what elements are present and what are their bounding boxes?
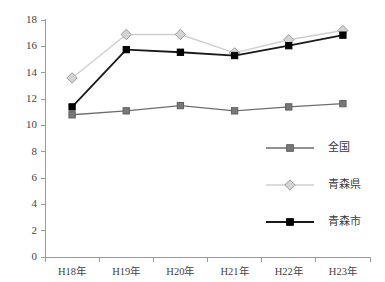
- chart-series-layer: [67, 25, 348, 118]
- data-point-marker: [231, 52, 237, 58]
- y-axis-tick-label: 12: [11, 93, 37, 104]
- data-point-marker: [340, 32, 346, 38]
- y-axis-tick-label: 6: [11, 172, 37, 183]
- data-point-marker: [340, 100, 346, 106]
- y-axis-tick-label: 8: [11, 146, 37, 157]
- data-point-marker: [285, 180, 295, 190]
- legend-label-1: 全国: [328, 141, 350, 153]
- x-axis-tick-label: H23年: [313, 266, 373, 277]
- data-point-marker: [69, 104, 75, 110]
- x-axis-tick-label: H22年: [259, 266, 319, 277]
- y-axis-tick-label: 18: [11, 14, 37, 25]
- legend-entry-symbol: [266, 219, 314, 226]
- chart-series: [69, 100, 346, 117]
- legend-entry-symbol: [266, 145, 314, 152]
- chart-axes: [41, 19, 370, 262]
- y-axis-tick-label: 14: [11, 67, 37, 78]
- data-point-marker: [123, 108, 129, 114]
- line-chart: 024681012141618 H18年H19年H20年H21年H22年H23年…: [0, 0, 385, 282]
- x-axis-tick-label: H21年: [205, 266, 265, 277]
- data-point-marker: [177, 102, 183, 108]
- legend-label-2: 青森県: [328, 178, 361, 190]
- y-axis-tick-label: 2: [11, 225, 37, 236]
- legend-label-3: 青森市: [328, 215, 361, 227]
- series-line: [72, 104, 343, 115]
- data-point-marker: [231, 108, 237, 114]
- data-point-marker: [177, 49, 183, 55]
- data-point-marker: [287, 219, 294, 226]
- data-point-marker: [286, 43, 292, 49]
- y-axis-tick-label: 4: [11, 198, 37, 209]
- chart-legend-symbols: [266, 145, 314, 226]
- data-point-marker: [175, 29, 185, 39]
- x-axis-tick-label: H19年: [96, 266, 156, 277]
- y-axis-tick-label: 10: [11, 119, 37, 130]
- y-axis-tick-label: 16: [11, 40, 37, 51]
- legend-entry-symbol: [266, 180, 314, 190]
- data-point-marker: [123, 46, 129, 52]
- data-point-marker: [69, 112, 75, 118]
- x-axis-tick-label: H20年: [150, 266, 210, 277]
- data-point-marker: [287, 145, 294, 152]
- y-axis-tick-label: 0: [11, 251, 37, 262]
- data-point-marker: [286, 104, 292, 110]
- x-axis-tick-label: H18年: [42, 266, 102, 277]
